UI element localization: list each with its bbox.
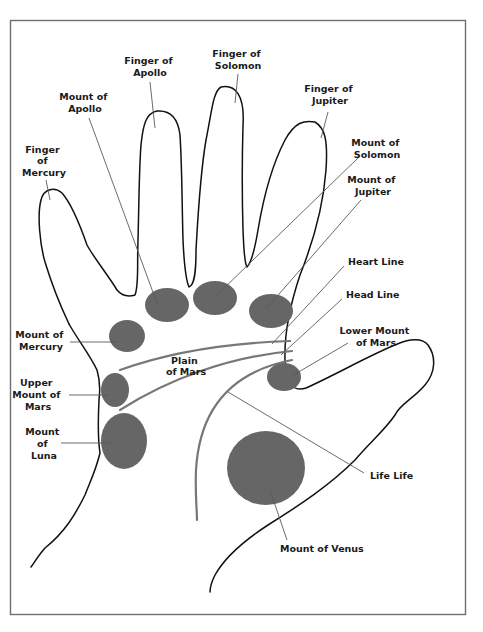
mount-of-apollo <box>145 288 189 322</box>
label-upper-mount-of-mars: Upper Mount of Mars <box>12 377 63 412</box>
label-finger-of-solomon: Finger of Solomon <box>212 48 264 71</box>
label-head-line: Head Line <box>346 289 399 300</box>
lower-mount-of-mars <box>267 363 301 391</box>
label-mount-of-jupiter: Mount of Jupiter <box>347 174 398 197</box>
palmistry-hand-diagram: Finger of Apollo Finger of Solomon Finge… <box>0 0 483 632</box>
mount-of-venus <box>227 431 305 505</box>
label-finger-of-mercury: Finger of Mercury <box>22 144 67 178</box>
label-plain-of-mars: Plain of Mars <box>166 355 207 377</box>
label-mount-of-apollo: Mount of Apollo <box>59 91 110 114</box>
label-mount-of-solomon: Mount of Solomon <box>351 137 402 160</box>
mount-of-jupiter <box>249 294 293 328</box>
label-mount-of-venus: Mount of Venus <box>280 543 364 554</box>
head-line <box>120 351 292 410</box>
label-life-line: Life Life <box>370 470 413 481</box>
leader-finger-of-solomon <box>235 74 238 103</box>
upper-mount-of-mars <box>101 373 129 407</box>
label-heart-line: Heart Line <box>348 256 404 267</box>
leader-finger-of-apollo <box>150 82 155 128</box>
label-finger-of-apollo: Finger of Apollo <box>124 55 176 78</box>
mount-of-luna <box>101 413 147 469</box>
label-mount-of-mercury: Mount of Mercury <box>15 329 66 352</box>
leader-mount-of-apollo <box>89 118 158 306</box>
label-lower-mount-of-mars: Lower Mount of Mars <box>339 325 412 348</box>
label-mount-of-luna: Mount of Luna <box>25 426 62 461</box>
mount-of-mercury <box>109 320 145 352</box>
mount-of-solomon <box>193 281 237 315</box>
mounts <box>101 281 305 505</box>
label-finger-of-jupiter: Finger of Jupiter <box>304 83 356 106</box>
